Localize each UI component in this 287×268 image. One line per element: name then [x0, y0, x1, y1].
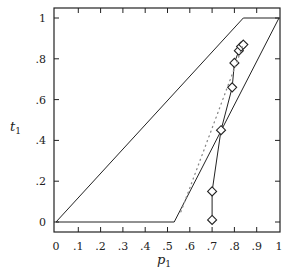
- diamond-marker: [208, 215, 217, 224]
- x-tick-label: .3: [118, 240, 129, 253]
- y-tick-label: .6: [36, 94, 47, 107]
- x-tick-label: .2: [95, 240, 106, 253]
- x-tick-label: 1: [276, 240, 283, 253]
- x-tick-label: .9: [251, 240, 262, 253]
- chart: 0.1.2.3.4.5.6.7.8.91 0.2.4.6.81 p1 t1: [0, 0, 287, 268]
- boundary-region-line: [56, 18, 279, 222]
- y-tick-label: .8: [36, 53, 47, 66]
- y-tick-label: .2: [36, 175, 47, 188]
- y-tick-label: .4: [36, 134, 47, 147]
- y-axis-label: t1: [10, 119, 21, 136]
- plot-frame: [54, 8, 280, 232]
- diamond-marker: [208, 187, 217, 196]
- x-tick-label: .7: [207, 240, 218, 253]
- x-tick-label: .6: [185, 240, 196, 253]
- x-tick-label: .4: [140, 240, 151, 253]
- diamond-marker: [217, 126, 226, 135]
- x-tick-label: .8: [229, 240, 240, 253]
- x-tick-label: 0: [53, 240, 60, 253]
- series-layer: [56, 18, 279, 224]
- x-axis-label: p1: [157, 252, 171, 268]
- trajectory-line: [212, 45, 243, 221]
- diamond-marker: [230, 58, 239, 67]
- x-tick-label: .1: [73, 240, 84, 253]
- y-tick-label: 0: [39, 216, 46, 229]
- y-tick-label: 1: [39, 12, 46, 25]
